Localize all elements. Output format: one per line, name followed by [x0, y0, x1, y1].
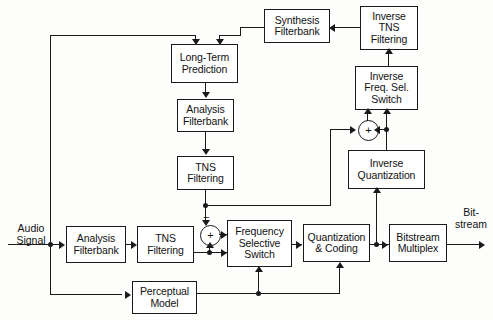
- block-synthesis-filterbank[interactable]: Synthesis Filterbank: [264, 9, 330, 43]
- arrow-into-ifss-right: [383, 108, 391, 114]
- arrow-into-perceptual: [125, 291, 131, 299]
- block-bitstream-multiplex[interactable]: Bitstream Multiplex: [389, 224, 447, 262]
- block-quantization-and-coding[interactable]: Quantization & Coding: [303, 224, 370, 262]
- wire-synth-down-corner: [240, 27, 241, 35]
- arrow-perceptual-to-quant: [336, 262, 344, 268]
- block-tns-filtering-ltp[interactable]: TNS Filtering: [177, 156, 234, 190]
- arrow-into-ifss-left: [364, 108, 372, 114]
- wire-synth-to-ltp: [219, 35, 241, 36]
- arrow-into-sum-bottom: [206, 242, 214, 248]
- wire-tns-ltp-branch-right: [205, 205, 330, 206]
- wire-synth-out-left: [240, 27, 265, 28]
- wire-audio-input: [8, 244, 50, 245]
- arrow-into-decoder-sum-left: [350, 126, 356, 134]
- block-tns-filtering-main[interactable]: TNS Filtering: [137, 226, 194, 263]
- wire-analysis-to-tns-ltp: [205, 132, 206, 150]
- block-inverse-quantization[interactable]: Inverse Quantization: [348, 150, 425, 189]
- block-perceptual-model[interactable]: Perceptual Model: [132, 281, 197, 314]
- wire-itns-to-synth: [332, 27, 360, 28]
- label-audio-signal: Audio Signal: [8, 223, 54, 246]
- block-analysis-filterbank-main[interactable]: Analysis Filterbank: [66, 226, 126, 263]
- block-inverse-tns-filtering[interactable]: Inverse TNS Filtering: [360, 6, 418, 50]
- arrow-itns-to-synth: [329, 24, 335, 32]
- arrow-audio-to-analysis: [59, 241, 65, 249]
- arrow-into-ltp-left: [192, 39, 200, 45]
- wire-bsm-to-output: [447, 244, 481, 245]
- arrow-bitstream-output: [479, 241, 485, 249]
- wire-invquant-to-sum: [386, 129, 387, 151]
- block-analysis-filterbank-ltp[interactable]: Analysis Filterbank: [177, 99, 234, 132]
- wire-audio-trunk-up: [50, 35, 51, 245]
- wire-perceptual-right: [197, 293, 340, 294]
- arrow-into-decoder-sum-right: [374, 126, 380, 134]
- block-long-term-prediction[interactable]: Long-Term Prediction: [171, 44, 238, 83]
- arrow-quant-to-bsm: [382, 241, 388, 249]
- arrow-sum-to-fss: [221, 231, 227, 239]
- arrow-perceptual-to-fss: [255, 266, 263, 272]
- wire-perceptual-to-quant: [339, 265, 340, 294]
- arrow-analysis-to-tns-ltp: [202, 149, 210, 155]
- arrow-analysis-to-tns: [131, 241, 137, 249]
- arrow-into-sum-top-minus: [202, 220, 210, 226]
- wire-audio-trunk-down: [50, 244, 51, 294]
- block-frequency-selective-switch[interactable]: Frequency Selective Switch: [227, 220, 292, 267]
- wire-tns-ltp-branch-up: [330, 129, 331, 206]
- wire-audio-to-perceptual: [50, 294, 122, 295]
- arrow-into-ltp-right: [216, 39, 224, 45]
- arrow-ltp-to-analysis: [202, 92, 210, 98]
- wire-quant-to-invquant: [376, 189, 377, 244]
- wire-audio-to-ltp: [50, 35, 195, 36]
- arrow-into-inverse-quantization: [373, 187, 381, 193]
- block-diagram-canvas: Long-Term Prediction Analysis Filterbank…: [0, 0, 493, 320]
- label-bitstream: Bit- stream: [450, 207, 492, 230]
- arrow-ifss-to-itns: [385, 48, 393, 54]
- block-inverse-freq-sel-switch[interactable]: Inverse Freq. Sel. Switch: [355, 66, 418, 110]
- arrow-fss-to-quant: [296, 241, 302, 249]
- arrow-tns-to-fss-lower: [221, 249, 227, 257]
- wire-perceptual-to-fss: [258, 269, 259, 294]
